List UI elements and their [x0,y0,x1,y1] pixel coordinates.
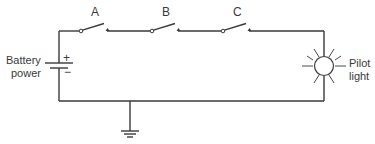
battery-label-line2: power [11,67,41,79]
ground-symbol [121,101,139,137]
switch-b [150,24,180,33]
switch-a-label: A [91,6,99,18]
battery-positive-sign: + [63,52,70,64]
circuit-diagram [0,0,375,144]
switch-c [221,24,251,33]
pilot-light-label-line2: light [349,70,369,82]
battery-label-line1: Battery [6,54,41,66]
pilot-light-label-line1: Pilot [349,57,370,69]
switch-b-label: B [162,6,170,18]
switch-a [79,24,109,33]
switch-c-label: C [233,6,242,18]
battery-negative-sign: − [64,66,71,78]
